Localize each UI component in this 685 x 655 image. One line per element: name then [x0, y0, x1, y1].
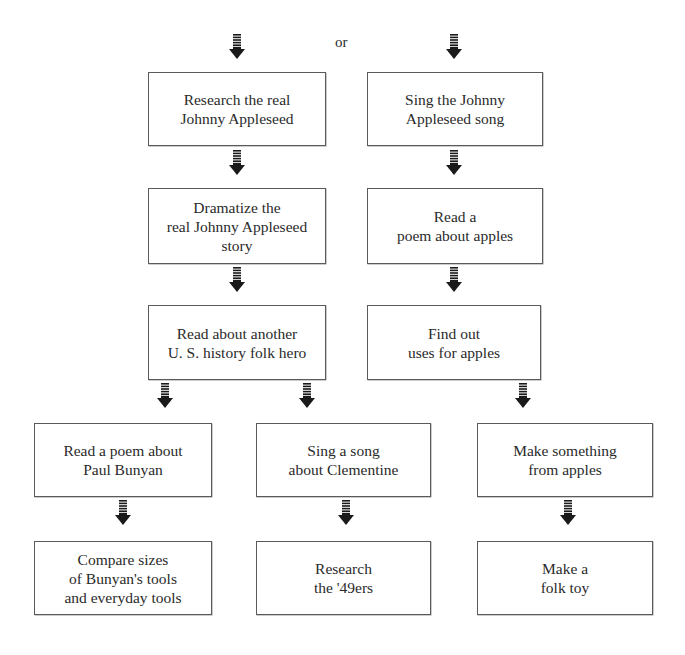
arrow-down-icon	[229, 267, 245, 292]
arrow-down-icon	[157, 383, 173, 408]
node-label: Compare sizes of Bunyan's tools and ever…	[64, 550, 181, 607]
arrow-down-icon	[560, 500, 576, 525]
node-label: Read about another U. S. history folk he…	[168, 324, 307, 362]
node-sing-clementine: Sing a song about Clementine	[256, 423, 431, 497]
node-label: Sing the Johnny Appleseed song	[405, 90, 505, 128]
node-sing-johnny-song: Sing the Johnny Appleseed song	[367, 72, 543, 146]
node-compare-tool-sizes: Compare sizes of Bunyan's tools and ever…	[34, 541, 212, 615]
arrow-down-icon	[515, 383, 531, 408]
node-label: Make a folk toy	[541, 559, 590, 597]
node-make-folk-toy: Make a folk toy	[477, 541, 653, 615]
node-research-49ers: Research the '49ers	[256, 541, 431, 615]
node-label: Find out uses for apples	[408, 324, 500, 362]
or-connector-label: or	[335, 34, 348, 51]
node-label: Dramatize the real Johnny Appleseed stor…	[167, 198, 307, 255]
node-label: Research the '49ers	[314, 559, 373, 597]
start-arrow-left-icon	[229, 34, 245, 59]
node-label: Research the real Johnny Appleseed	[180, 90, 293, 128]
arrow-down-icon	[446, 267, 462, 292]
node-label: Make something from apples	[513, 441, 617, 479]
node-dramatize-story: Dramatize the real Johnny Appleseed stor…	[148, 188, 326, 264]
node-label: Read a poem about apples	[397, 207, 513, 245]
arrow-down-icon	[338, 500, 354, 525]
arrow-down-icon	[229, 150, 245, 175]
node-label: Sing a song about Clementine	[289, 441, 399, 479]
start-arrow-right-icon	[446, 34, 462, 59]
node-read-bunyan-poem: Read a poem about Paul Bunyan	[34, 423, 212, 497]
node-label: Read a poem about Paul Bunyan	[63, 441, 182, 479]
arrow-down-icon	[446, 150, 462, 175]
node-make-from-apples: Make something from apples	[477, 423, 653, 497]
node-find-apple-uses: Find out uses for apples	[367, 305, 541, 380]
arrow-down-icon	[299, 383, 315, 408]
node-research-real-johnny: Research the real Johnny Appleseed	[148, 72, 326, 146]
node-read-apple-poem: Read a poem about apples	[367, 188, 543, 264]
node-read-folk-hero: Read about another U. S. history folk he…	[148, 305, 326, 380]
arrow-down-icon	[115, 500, 131, 525]
